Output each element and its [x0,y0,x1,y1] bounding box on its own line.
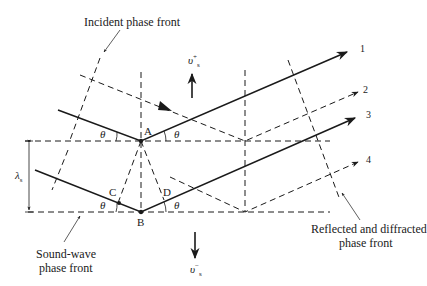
velocity-up-label: υ+s [188,54,200,69]
point-d-label: D [163,187,171,198]
ray-2-direction-arrow [158,101,172,111]
theta-arc-a-right [164,131,166,141]
wavelength-label: λs [15,170,23,184]
ray-4-label: 4 [366,155,371,165]
theta-arc-a-left [116,132,117,141]
velocity-down-label: υ−s [190,263,202,278]
point-a-dot [139,139,143,143]
point-c-label: C [109,187,116,198]
reflected-front-label-2: phase front [339,237,393,249]
theta-label-b-right: θ [174,200,179,211]
theta-label-a-left: θ [100,129,105,140]
reflected-front-label-1: Reflected and diffracted [311,223,427,235]
ray-3-path [35,118,355,212]
sound-wave-front-label-2: phase front [39,262,93,274]
theta-label-b-left: θ [100,200,105,211]
incident-phase-front [70,58,100,140]
point-b-label: B [137,217,144,228]
ray-2-label: 2 [363,85,368,95]
point-a-label: A [144,126,152,137]
theta-arc-b-right [164,202,166,212]
incident-phase-front-label: Incident phase front [84,16,180,28]
reflected-phase-front [288,60,340,200]
incident-phase-front-lower [52,150,68,190]
point-b-dot [139,210,143,214]
ray-1-label: 1 [360,44,365,54]
line-a-to-d [141,141,164,200]
sound-wave-front-label-1: Sound-wave [36,248,96,260]
incident-front-leader [104,30,120,52]
theta-arc-b-left [116,203,117,212]
ray-3-label: 3 [366,110,371,120]
theta-label-a-right: θ [174,129,179,140]
sound-front-leader [64,216,80,242]
reflected-front-leader [342,193,360,220]
line-a-to-c [118,141,141,203]
point-c-dot [117,201,121,205]
